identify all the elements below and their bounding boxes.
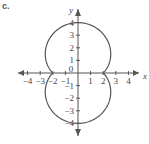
x-tick-label: 4 (126, 76, 131, 86)
y-tick-label: −3 (64, 106, 74, 116)
y-arrow-down-icon (75, 129, 81, 136)
y-tick-label: 3 (70, 30, 75, 40)
x-tick-label: 1 (88, 76, 93, 86)
x-tick-label: 2 (101, 76, 106, 86)
x-tick-label: 3 (114, 76, 119, 86)
x-arrow-right-icon (133, 70, 139, 76)
x-tick-label: 0 (69, 64, 74, 74)
y-tick-label: −1 (64, 81, 74, 91)
x-axis-label: x (142, 71, 147, 81)
polar-plot: −4−3−2−101234−4−3−2−11234xy (0, 0, 149, 144)
y-tick-label: −2 (64, 93, 74, 103)
y-tick-label: 2 (70, 43, 75, 53)
x-tick-label: −4 (23, 76, 33, 86)
x-tick-label: −3 (35, 76, 45, 86)
y-axis-label: y (68, 5, 73, 15)
y-tick-label: 1 (70, 55, 75, 65)
y-arrow-up-icon (75, 9, 81, 16)
